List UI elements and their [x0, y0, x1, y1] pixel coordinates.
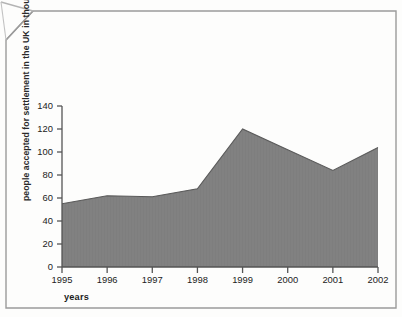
x-axis-tick-label: 1999	[223, 275, 263, 284]
x-axis-tick-label: 2002	[358, 275, 398, 284]
plot-canvas	[0, 0, 402, 317]
x-axis-ticks	[62, 267, 378, 273]
chart-page: people accepted for settlement in the UK…	[0, 0, 402, 317]
y-axis-tick-label: 40	[27, 216, 53, 225]
y-axis-tick-label: 100	[27, 147, 53, 156]
y-axis-tick-label: 20	[27, 239, 53, 248]
x-axis-tick-label: 1998	[177, 275, 217, 284]
x-axis-tick-label: 2001	[313, 275, 353, 284]
x-axis-tick-label: 2000	[268, 275, 308, 284]
x-axis-title: years	[64, 292, 89, 302]
y-axis-tick-label: 80	[27, 170, 53, 179]
y-axis-tick-label: 120	[27, 124, 53, 133]
x-axis-tick-label: 1997	[132, 275, 172, 284]
x-axis-tick-label: 1995	[42, 275, 82, 284]
y-axis-tick-label: 60	[27, 193, 53, 202]
y-axis-tick-label: 0	[27, 262, 53, 271]
y-axis-ticks	[57, 106, 62, 267]
x-axis-tick-label: 1996	[87, 275, 127, 284]
y-axis-tick-labels: 020406080100120140	[27, 0, 53, 317]
y-axis-tick-label: 140	[27, 101, 53, 110]
